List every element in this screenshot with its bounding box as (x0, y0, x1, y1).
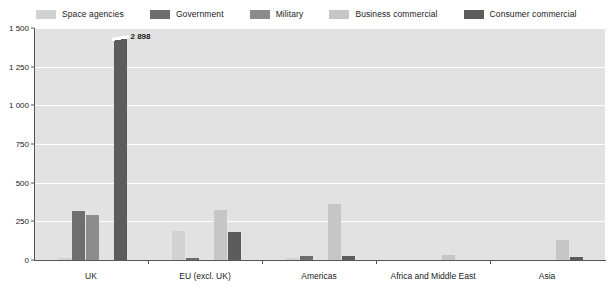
bar-groups: 2 898 (35, 28, 605, 260)
x-axis-tick-mark (490, 260, 491, 264)
bar-group: 2 898 (35, 28, 149, 260)
x-axis-category-label: Asia (490, 262, 604, 286)
y-axis-tick-label: 750 (16, 140, 29, 149)
bar[interactable] (556, 240, 569, 260)
chart-legend: Space agenciesGovernmentMilitaryBusiness… (0, 0, 610, 28)
bar-group (491, 28, 605, 260)
bar-group (149, 28, 263, 260)
legend-item-label: Consumer commercial (490, 9, 577, 19)
bar[interactable] (86, 215, 99, 260)
plot-area: 2 898 (34, 28, 605, 260)
y-axis-tick-label: 250 (16, 217, 29, 226)
x-axis-category-label: UK (34, 262, 148, 286)
y-axis-tick-label: 0 (25, 256, 29, 265)
legend-item[interactable]: Space agencies (36, 9, 124, 19)
bar[interactable] (172, 231, 185, 260)
bar[interactable] (228, 232, 241, 260)
x-axis-category-label: Africa and Middle East (376, 262, 490, 286)
legend-item[interactable]: Military (250, 9, 304, 19)
x-axis-tick-mark (262, 260, 263, 264)
x-axis-category-label: EU (excl. UK) (148, 262, 262, 286)
x-axis-tick-mark (376, 260, 377, 264)
legend-swatch-icon (464, 10, 484, 19)
legend-item-label: Space agencies (62, 9, 124, 19)
y-axis-tick-label: 1 000 (9, 101, 29, 110)
bar-group (377, 28, 491, 260)
legend-swatch-icon (150, 10, 170, 19)
x-axis-line (34, 260, 606, 261)
chart-area: 02505007501 0001 2501 500 2 898 UKEU (ex… (0, 28, 610, 290)
legend-item-label: Military (276, 9, 304, 19)
bar[interactable] (328, 204, 341, 260)
bar-value-label: 2 898 (131, 32, 151, 41)
bar[interactable]: 2 898 (114, 37, 127, 260)
legend-item[interactable]: Consumer commercial (464, 9, 577, 19)
y-axis: 02505007501 0001 2501 500 (0, 28, 34, 260)
bar-group (263, 28, 377, 260)
legend-swatch-icon (250, 10, 270, 19)
y-axis-tick-label: 500 (16, 178, 29, 187)
x-axis-tick-mark (148, 260, 149, 264)
bar[interactable] (72, 211, 85, 260)
x-axis-category-label: Americas (262, 262, 376, 286)
legend-swatch-icon (36, 10, 56, 19)
x-axis-labels: UKEU (excl. UK)AmericasAfrica and Middle… (34, 262, 604, 286)
legend-item[interactable]: Government (150, 9, 224, 19)
legend-item[interactable]: Business commercial (329, 9, 437, 19)
y-axis-tick-label: 1 500 (9, 24, 29, 33)
legend-item-label: Business commercial (355, 9, 437, 19)
legend-item-label: Government (176, 9, 224, 19)
legend-swatch-icon (329, 10, 349, 19)
y-axis-tick-label: 1 250 (9, 62, 29, 71)
bar[interactable] (214, 210, 227, 260)
